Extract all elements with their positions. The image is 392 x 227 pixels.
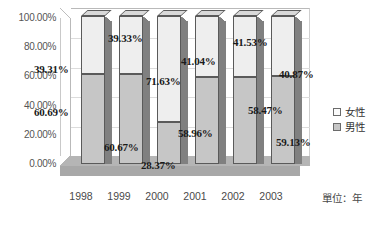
legend-swatch-male-icon: [333, 123, 341, 131]
value-label-male-2003: 59.13%: [276, 136, 311, 148]
floor-wedge: [60, 156, 70, 166]
value-label-female-2001: 41.04%: [181, 55, 216, 67]
y-axis-tick-20: 20.00%: [4, 129, 56, 140]
y-axis-tick-0: 0.00%: [4, 158, 56, 169]
bar-1998: [81, 16, 105, 164]
bar-2000: [157, 16, 181, 164]
value-label-female-2000: 71.63%: [146, 75, 181, 87]
bar-1998-segment-female: [81, 16, 105, 74]
bar-2001: [195, 16, 219, 164]
chart-legend: 女性 男性: [333, 104, 365, 134]
bar-2000-side-face: [181, 21, 188, 164]
value-label-female-2003: 40.87%: [279, 68, 314, 80]
x-axis-tick-1998: 1998: [61, 190, 101, 202]
y-axis-tick-80: 80.00%: [4, 41, 56, 52]
value-label-female-1999: 39.33%: [108, 32, 143, 44]
floor-front-face: [60, 166, 300, 176]
bar-2001-segment-female: [195, 16, 219, 77]
value-label-male-1998: 60.69%: [34, 106, 69, 118]
value-label-female-2002: 41.53%: [233, 36, 268, 48]
x-axis-tick-2000: 2000: [137, 190, 177, 202]
bar-1999-segment-female: [119, 16, 143, 74]
x-axis-tick-2001: 2001: [175, 190, 215, 202]
legend-item-female[interactable]: 女性: [333, 104, 365, 119]
bar-2002-segment-male: [233, 77, 257, 164]
stacked-bar-chart: 100.00% 80.00% 60.00% 40.00% 20.00% 0.00…: [0, 0, 392, 227]
x-axis-tick-2002: 2002: [213, 190, 253, 202]
legend-label-male: 男性: [345, 119, 365, 134]
bar-2001-segment-male: [195, 77, 219, 164]
plot-left-depth-wall: [60, 18, 70, 166]
x-axis-tick-2003: 2003: [251, 190, 291, 202]
value-label-male-2000: 28.37%: [141, 159, 176, 171]
x-axis-tick-1999: 1999: [99, 190, 139, 202]
bar-1999-side-face: [143, 21, 150, 164]
legend-label-female: 女性: [345, 104, 365, 119]
value-label-female-1998: 39.31%: [34, 63, 69, 75]
plot-area: [60, 8, 310, 184]
bar-1998-segment-male: [81, 74, 105, 164]
value-label-male-2002: 58.47%: [248, 104, 283, 116]
bar-2003-segment-male: [271, 76, 295, 164]
bar-2001-side-face: [219, 21, 226, 164]
y-axis-tick-100: 100.00%: [4, 12, 56, 23]
legend-item-male[interactable]: 男性: [333, 119, 365, 134]
bar-2000-segment-female: [157, 16, 181, 122]
value-label-male-2001: 58.96%: [178, 127, 213, 139]
unit-note-label: 單位：年: [322, 190, 362, 205]
legend-swatch-female-icon: [333, 108, 341, 116]
bar-2003-segment-female: [271, 16, 295, 76]
value-label-male-1999: 60.67%: [104, 141, 139, 153]
